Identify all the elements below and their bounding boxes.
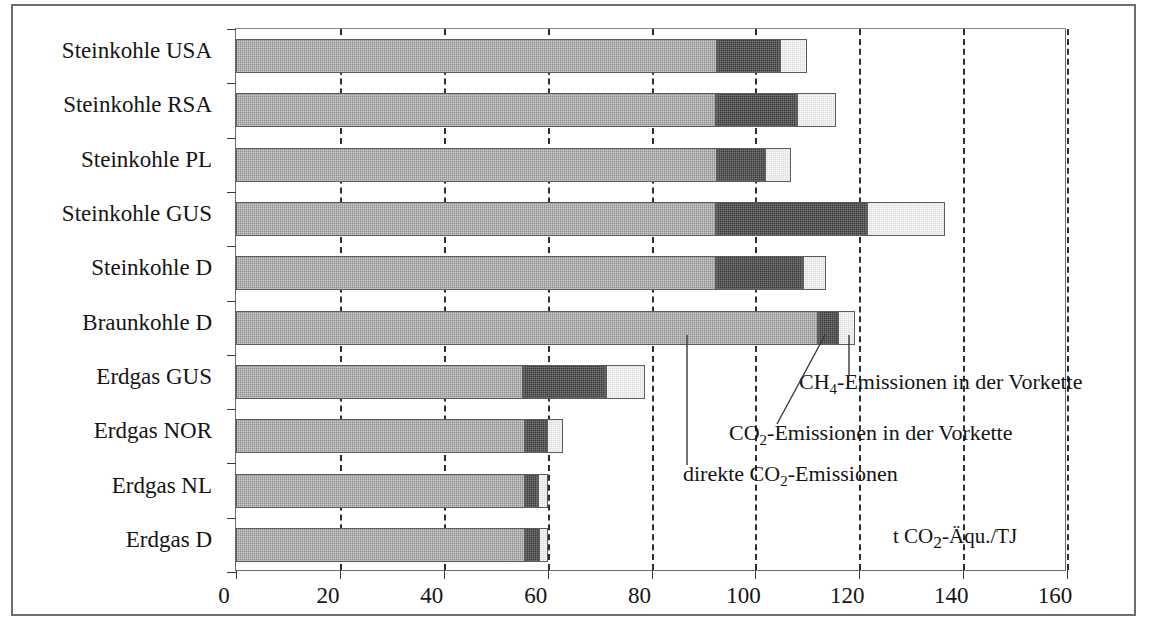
chart-figure: Steinkohle USASteinkohle RSASteinkohle P… [0,0,1150,638]
leader-co2 [777,335,825,424]
unit-label: t CO2-Äqu./TJ [893,526,1017,553]
subscript: 2 [933,532,942,552]
figure-frame: Steinkohle USASteinkohle RSASteinkohle P… [11,4,1136,616]
